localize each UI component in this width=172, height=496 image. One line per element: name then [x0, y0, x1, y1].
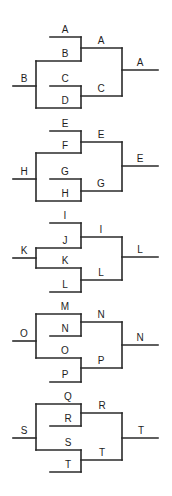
- bracket-5: Q R S T S R T T: [13, 391, 158, 472]
- slot-label: S: [65, 437, 72, 448]
- slot-label: F: [62, 140, 68, 151]
- bracket-2: E F G H H E G E: [13, 118, 158, 201]
- slot-label: K: [62, 255, 69, 266]
- entry-label: H: [20, 166, 27, 177]
- slot-label: P: [62, 369, 69, 380]
- round2-label: P: [98, 355, 105, 366]
- entry-label: S: [21, 425, 28, 436]
- bracket-1: A B C D B A C A: [13, 24, 158, 108]
- round2-label: R: [98, 400, 105, 411]
- slot-label: T: [65, 459, 71, 470]
- winner-label: A: [137, 57, 144, 68]
- slot-label: J: [63, 235, 68, 246]
- round2-label: T: [99, 447, 105, 458]
- round2-label: N: [97, 309, 104, 320]
- slot-label: I: [64, 210, 67, 221]
- entry-label: B: [21, 73, 28, 84]
- slot-label: Q: [64, 391, 72, 402]
- round2-label: G: [97, 178, 105, 189]
- slot-label: O: [61, 345, 69, 356]
- winner-label: N: [136, 332, 143, 343]
- slot-label: R: [64, 413, 71, 424]
- entry-label: O: [20, 328, 28, 339]
- round2-label: E: [98, 129, 105, 140]
- slot-label: E: [62, 118, 69, 129]
- bracket-4: M N O P O N P N: [13, 301, 158, 382]
- bracket-3: I J K L K I L L: [13, 210, 158, 292]
- winner-label: L: [137, 244, 143, 255]
- round2-label: C: [97, 83, 104, 94]
- round2-label: L: [98, 267, 104, 278]
- winner-label: E: [137, 153, 144, 164]
- slot-label: G: [61, 166, 69, 177]
- slot-label: D: [61, 95, 68, 106]
- slot-label: L: [62, 279, 68, 290]
- slot-label: N: [61, 323, 68, 334]
- entry-label: K: [21, 245, 28, 256]
- round2-label: I: [100, 224, 103, 235]
- slot-label: A: [62, 24, 69, 35]
- slot-label: H: [61, 188, 68, 199]
- round2-label: A: [98, 35, 105, 46]
- slot-label: M: [61, 301, 69, 312]
- slot-label: C: [61, 73, 68, 84]
- bracket-diagram: A B C D B A C A E F G H H E G E: [0, 0, 172, 496]
- winner-label: T: [138, 425, 144, 436]
- slot-label: B: [62, 48, 69, 59]
